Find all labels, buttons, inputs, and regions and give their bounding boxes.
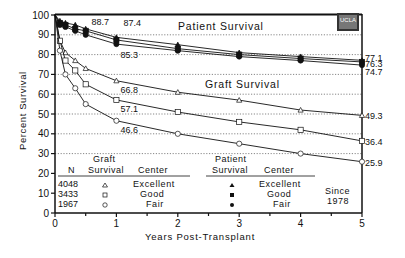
data-point	[298, 127, 303, 132]
legend-center-fair: Fair	[146, 199, 164, 209]
y-tick-label: 80	[38, 49, 50, 60]
open-square-icon	[103, 193, 107, 197]
legend-center-good: Good	[140, 189, 164, 199]
legend-center-fair-2: Fair	[273, 199, 291, 209]
data-point	[114, 118, 119, 123]
x-tick-label: 0	[52, 218, 58, 229]
legend-patient-header-2: Survival	[212, 165, 248, 175]
legend-graft-header-2: Survival	[88, 165, 124, 175]
legend-patient-markers	[230, 183, 235, 207]
value-annotation: 36.4	[365, 137, 383, 147]
data-point	[359, 159, 364, 164]
open-circle-icon	[103, 203, 107, 207]
value-annotation: 57.1	[120, 104, 138, 114]
legend-center-good-2: Good	[267, 189, 291, 199]
value-annotation: 49.3	[365, 111, 383, 121]
data-point	[175, 109, 180, 114]
axes: 0102030405060708090100012345	[32, 10, 365, 230]
legend-center-header: Center	[138, 165, 168, 175]
y-axis-label: Percent Survival	[17, 71, 28, 150]
data-point	[83, 102, 88, 107]
legend-n-header: N	[68, 165, 75, 175]
open-triangle-icon	[103, 183, 108, 187]
legend-graft-header-1: Graft	[93, 154, 116, 164]
data-point	[175, 131, 180, 136]
value-annotation: 88.7	[91, 17, 109, 27]
y-tick-label: 0	[43, 208, 49, 219]
filled-square-icon	[230, 193, 234, 197]
data-point	[73, 28, 78, 33]
data-point	[114, 42, 119, 47]
legend-patient-header-1: Patient	[215, 154, 247, 164]
gridlines	[55, 35, 362, 154]
value-annotation: 87.4	[123, 18, 141, 28]
survival-chart: 0102030405060708090100012345 88.787.485.…	[0, 0, 405, 258]
data-point	[298, 151, 303, 156]
y-tick-label: 50	[38, 109, 50, 120]
y-tick-label: 20	[38, 168, 50, 179]
legend-center-excellent: Excellent	[133, 179, 175, 189]
x-axis-label: Years Post-Transplant	[145, 231, 255, 242]
y-tick-label: 10	[38, 188, 50, 199]
legend-n-fair: 1967	[58, 199, 78, 209]
legend-n-excellent: 4048	[58, 179, 78, 189]
y-tick-label: 90	[38, 29, 50, 40]
data-point	[114, 97, 119, 102]
data-point	[359, 62, 364, 67]
data-point	[237, 54, 242, 59]
svg-text:UCLA: UCLA	[340, 17, 356, 23]
data-point	[298, 58, 303, 63]
legend-graft-markers	[103, 183, 108, 207]
data-point	[237, 141, 242, 146]
x-tick-label: 2	[175, 218, 181, 229]
filled-circle-icon	[230, 203, 234, 207]
data-point	[57, 22, 62, 27]
legend-n-good: 3433	[58, 189, 78, 199]
y-tick-label: 30	[38, 148, 50, 159]
value-annotation: 85.3	[120, 50, 138, 60]
ucla-logo: UCLA	[337, 13, 359, 31]
legend-since: Since	[325, 186, 350, 196]
legend: Graft N Survival Center Patient Survival…	[58, 154, 350, 209]
value-annotation: 46.6	[120, 125, 138, 135]
data-point	[57, 48, 62, 53]
x-tick-label: 1	[114, 218, 120, 229]
data-point	[63, 24, 68, 29]
data-point	[359, 138, 364, 143]
value-annotation: 66.8	[120, 85, 138, 95]
data-point	[63, 72, 68, 77]
x-tick-label: 5	[359, 218, 365, 229]
x-tick-label: 4	[298, 218, 304, 229]
data-point	[73, 86, 78, 91]
y-tick-label: 70	[38, 69, 50, 80]
data-point	[83, 82, 88, 87]
data-point	[63, 58, 68, 63]
value-annotation: 74.7	[365, 67, 383, 77]
value-annotation: 25.9	[365, 158, 383, 168]
y-tick-label: 100	[32, 10, 49, 21]
x-tick-label: 3	[236, 218, 242, 229]
legend-center-excellent-2: Excellent	[259, 179, 301, 189]
patient-survival-title: Patient Survival	[178, 20, 264, 32]
data-point	[83, 32, 88, 37]
graft-survival-title: Graft Survival	[205, 78, 280, 90]
data-point	[175, 48, 180, 53]
data-point	[73, 68, 78, 73]
data-point	[237, 119, 242, 124]
legend-center-header-2: Center	[264, 165, 294, 175]
y-tick-label: 60	[38, 89, 50, 100]
y-tick-label: 40	[38, 128, 50, 139]
filled-triangle-icon	[230, 183, 235, 187]
legend-since-year: 1978	[327, 196, 349, 206]
